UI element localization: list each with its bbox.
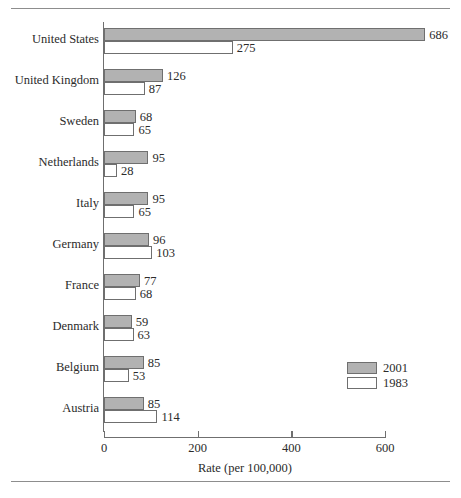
category-label: United Kingdom [0, 72, 99, 88]
bar-1983[interactable]: 63 [104, 328, 134, 341]
bar-group: United Kingdom12687 [0, 63, 461, 104]
bar-group: Germany96103 [0, 227, 461, 268]
bar-value-label: 65 [138, 204, 151, 220]
x-axis-title: Rate (per 100,000) [104, 461, 386, 476]
x-axis-tick [291, 431, 292, 437]
category-label: Austria [0, 400, 99, 416]
bar-1983[interactable]: 65 [104, 123, 134, 136]
bar-value-label: 53 [133, 368, 146, 384]
x-axis-tick-label: 0 [74, 441, 134, 456]
category-label: Denmark [0, 318, 99, 334]
bar-value-label: 63 [138, 327, 151, 343]
x-axis-tick-label: 200 [168, 441, 228, 456]
bar-value-label: 28 [121, 163, 134, 179]
x-axis-tick-label: 400 [261, 441, 321, 456]
bar-value-label: 68 [140, 286, 153, 302]
category-label: Germany [0, 236, 99, 252]
bar-1983[interactable]: 68 [104, 287, 136, 300]
bar-group: Netherlands9528 [0, 145, 461, 186]
bar-group: Italy9565 [0, 186, 461, 227]
legend-item-1983[interactable]: 1983 [347, 376, 442, 391]
bar-value-label: 95 [152, 150, 165, 166]
category-label: Belgium [0, 359, 99, 375]
x-axis-tick [385, 431, 386, 437]
bar-2001[interactable]: 77 [104, 274, 140, 287]
category-label: Sweden [0, 113, 99, 129]
bar-group: Denmark5963 [0, 309, 461, 350]
category-label: France [0, 277, 99, 293]
x-axis-tick [104, 431, 105, 437]
legend-label-1983: 1983 [383, 375, 408, 391]
chart-legend: 2001 1983 [347, 361, 442, 391]
legend-item-2001[interactable]: 2001 [347, 361, 442, 376]
value-axis-line [104, 437, 386, 438]
category-label: Italy [0, 195, 99, 211]
bar-2001[interactable]: 85 [104, 397, 144, 410]
figure-container: United States686275United Kingdom12687Sw… [0, 0, 461, 498]
bar-1983[interactable]: 114 [104, 410, 157, 423]
bar-1983[interactable]: 275 [104, 41, 233, 54]
bar-2001[interactable]: 68 [104, 110, 136, 123]
bar-2001[interactable]: 96 [104, 233, 149, 246]
bar-value-label: 87 [149, 81, 162, 97]
category-label: United States [0, 31, 99, 47]
x-axis-tick-label: 600 [355, 441, 415, 456]
bar-group: Austria85114 [0, 391, 461, 432]
bar-1983[interactable]: 28 [104, 164, 117, 177]
legend-swatch-icon-2001 [347, 362, 377, 374]
bar-1983[interactable]: 103 [104, 246, 152, 259]
category-label: Netherlands [0, 154, 99, 170]
bar-1983[interactable]: 65 [104, 205, 134, 218]
bar-1983[interactable]: 53 [104, 369, 129, 382]
bar-2001[interactable]: 59 [104, 315, 132, 328]
bar-2001[interactable]: 686 [104, 28, 425, 41]
bar-value-label: 114 [161, 409, 179, 425]
legend-label-2001: 2001 [383, 360, 408, 376]
bar-value-label: 95 [152, 191, 165, 207]
bar-value-label: 275 [237, 40, 256, 56]
bar-value-label: 686 [429, 27, 448, 43]
bar-group: United States686275 [0, 22, 461, 63]
bar-group: Sweden6865 [0, 104, 461, 145]
bar-1983[interactable]: 87 [104, 82, 145, 95]
x-axis-tick [198, 431, 199, 437]
bar-chart-plot-area: United States686275United Kingdom12687Sw… [0, 0, 461, 498]
legend-swatch-icon-1983 [347, 377, 377, 389]
bar-value-label: 126 [167, 68, 186, 84]
bar-value-label: 65 [138, 122, 151, 138]
bar-value-label: 85 [148, 355, 161, 371]
bar-value-label: 103 [156, 245, 175, 261]
bar-group: France7768 [0, 268, 461, 309]
